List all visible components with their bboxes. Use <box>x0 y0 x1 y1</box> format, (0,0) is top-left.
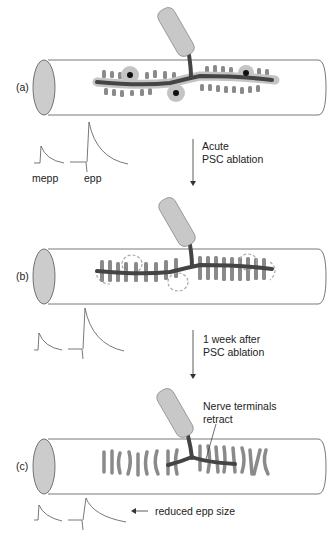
traces-c <box>34 498 126 530</box>
retract-label-line1: Nerve terminals <box>203 400 277 413</box>
traces-b <box>34 308 124 359</box>
mepp-label: mepp <box>32 172 58 185</box>
nerve-c <box>154 386 196 440</box>
reduced-epp-label: reduced epp size <box>155 505 235 518</box>
muscle-fiber-c <box>33 439 326 494</box>
panel-label-a: (a) <box>16 81 29 94</box>
panel-label-b: (b) <box>16 270 29 283</box>
nmj-diagram <box>0 0 334 536</box>
panel-label-c: (c) <box>16 460 28 473</box>
muscle-fiber-b <box>33 249 326 304</box>
arrow-1 <box>190 139 196 186</box>
arrow-2 <box>190 330 196 379</box>
nerve-a <box>155 5 197 59</box>
retract-label-line2: retract <box>203 413 233 426</box>
transition-2-line2: PSC ablation <box>203 346 264 359</box>
transition-1-line2: PSC ablation <box>202 153 263 166</box>
epp-label: epp <box>84 172 102 185</box>
nerve-b <box>156 195 198 249</box>
reduced-arrow <box>131 508 148 514</box>
transition-2-line1: 1 week after <box>203 333 260 346</box>
transition-1-line1: Acute <box>202 140 229 153</box>
traces-a <box>34 122 128 172</box>
